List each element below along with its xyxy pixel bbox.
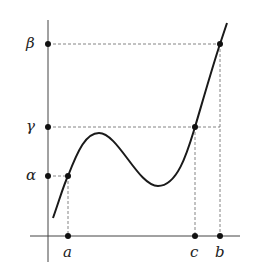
point-gamma-axis [45,124,51,130]
function-curve [53,23,227,218]
label-gamma: γ [26,119,35,134]
guide-lines [48,44,220,236]
label-a: a [63,245,72,260]
marked-points [45,41,223,239]
point-a-axis [65,233,71,239]
point-a-curve [65,173,71,179]
label-c: c [190,245,198,260]
point-b-curve [217,41,223,47]
function-graph [0,0,253,267]
point-alpha-axis [45,173,51,179]
point-beta-axis [45,41,51,47]
point-b-axis [217,233,223,239]
label-alpha: α [26,168,36,183]
point-c-curve [192,124,198,130]
label-b: b [215,245,225,260]
point-c-axis [192,233,198,239]
label-beta: β [26,36,35,51]
